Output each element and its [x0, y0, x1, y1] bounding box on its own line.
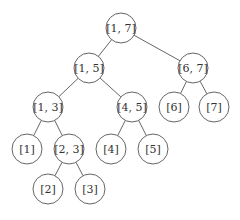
node-label-n13: [1, 3] — [33, 92, 63, 122]
node-label-n1: [1] — [12, 134, 42, 164]
node-label-n3: [3] — [75, 174, 105, 204]
node-label-n6: [6] — [159, 92, 189, 122]
node-label-n2: [2] — [33, 174, 63, 204]
node-label-n17: [1, 7] — [106, 13, 136, 43]
node-label-n45: [4, 5] — [117, 92, 147, 122]
node-label-n23: [2, 3] — [54, 134, 84, 164]
node-label-n5: [5] — [138, 134, 168, 164]
edge-n17-n67 — [134, 35, 180, 60]
segment-tree-diagram: [1, 7][1, 5][6, 7][1, 3][4, 5][6][7][1][… — [0, 0, 240, 220]
node-label-n15: [1, 5] — [74, 53, 104, 83]
node-label-n67: [6, 7] — [178, 53, 208, 83]
node-label-n7: [7] — [199, 92, 229, 122]
node-label-n4: [4] — [96, 134, 126, 164]
